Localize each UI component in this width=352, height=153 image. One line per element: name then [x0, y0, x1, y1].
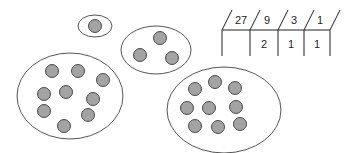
value-9: 2	[261, 38, 267, 50]
group-of-nine-right	[167, 67, 281, 153]
counter-dot	[181, 102, 194, 115]
counter-dot	[72, 65, 85, 78]
header-3: 3	[291, 14, 297, 26]
counter-dot	[97, 74, 110, 87]
single	[78, 15, 112, 37]
counter-dot	[38, 105, 51, 118]
counter-dot	[166, 52, 179, 65]
counter-dot	[46, 65, 59, 78]
counter-dot	[58, 120, 71, 133]
counter-groups	[17, 15, 281, 153]
counter-dot	[38, 88, 51, 101]
counter-dot	[229, 82, 242, 95]
counter-dot	[209, 76, 222, 89]
group-of-nine-left	[17, 53, 123, 139]
grouping-diagram: 27 9 3 1 2 1 1	[0, 0, 352, 153]
header-1: 1	[317, 14, 323, 26]
group-of-three	[121, 26, 191, 74]
header-divider	[222, 10, 232, 30]
counter-dot	[87, 93, 100, 106]
place-value-table: 27 9 3 1 2 1 1	[222, 10, 340, 56]
counter-dot	[60, 86, 73, 99]
header-27: 27	[235, 14, 247, 26]
counter-dot	[89, 20, 102, 33]
counter-dot	[189, 120, 202, 133]
counter-dot	[154, 32, 167, 45]
counter-dot	[134, 49, 147, 62]
value-1: 1	[314, 38, 320, 50]
counter-dot	[189, 83, 202, 96]
counter-dot	[203, 102, 216, 115]
counter-dot	[234, 118, 247, 131]
value-3: 1	[288, 38, 294, 50]
counter-dot	[82, 109, 95, 122]
header-divider	[330, 10, 340, 30]
header-9: 9	[264, 14, 270, 26]
counter-dot	[212, 121, 225, 134]
header-divider	[278, 10, 288, 30]
counter-dot	[230, 101, 243, 114]
header-divider	[304, 10, 314, 30]
header-divider	[250, 10, 260, 30]
